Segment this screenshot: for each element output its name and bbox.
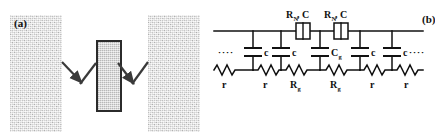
resistor-label-5: r [370,79,375,90]
bottom-resistor-r-1 [214,65,253,75]
arrow-left-incoming [62,62,82,83]
equivalent-circuit-diagram: R N , C R N , C c c C g c c ···· ···· r [210,0,427,140]
capacitor-label-4: c [371,47,376,58]
panel-b: R N , C R N , C c c C g c c ···· ···· r [210,0,427,140]
arrow-right-outgoing [132,62,148,84]
top-label-group-1: R N , C [286,9,309,22]
capacitor-label-group-g: C g [331,47,343,60]
series-label-1-tail: , C [297,9,309,20]
resistor-label-1: r [222,79,227,90]
series-label-2-tail: , C [335,9,347,20]
capacitor-label-5: c [403,47,408,58]
capacitor-label-g-sub: g [339,53,343,60]
conduction-path-arrows [0,0,210,140]
arrow-right-incoming [118,63,134,84]
continuation-dots-right: ···· [409,47,425,57]
bottom-resistor-r-3 [360,65,392,75]
bottom-resistor-Rg-2 [320,65,360,75]
resistor-label-Rg-1-sub: g [298,85,302,92]
resistor-label-6: r [404,79,409,90]
resistor-label-Rg-2-sub: g [338,85,342,92]
top-label-group-2: R N , C [324,9,347,22]
capacitor-label-2: c [292,47,297,58]
capacitor-label-g: C [331,47,338,58]
panel-b-label: (b) [422,13,435,25]
panel-a-label: (a) [14,17,27,29]
bottom-resistor-r-2 [253,65,281,75]
resistor-label-group-g2: R g [330,79,342,92]
arrow-left-outgoing [80,63,96,84]
continuation-dots-left: ···· [218,47,234,57]
resistor-label-2: r [263,79,268,90]
panel-a: (a) [0,0,210,140]
resistor-label-group-g1: R g [290,79,302,92]
capacitor-label-1: c [264,47,269,58]
bottom-resistor-r-4 [392,65,423,75]
bottom-resistor-Rg-1 [281,65,320,75]
